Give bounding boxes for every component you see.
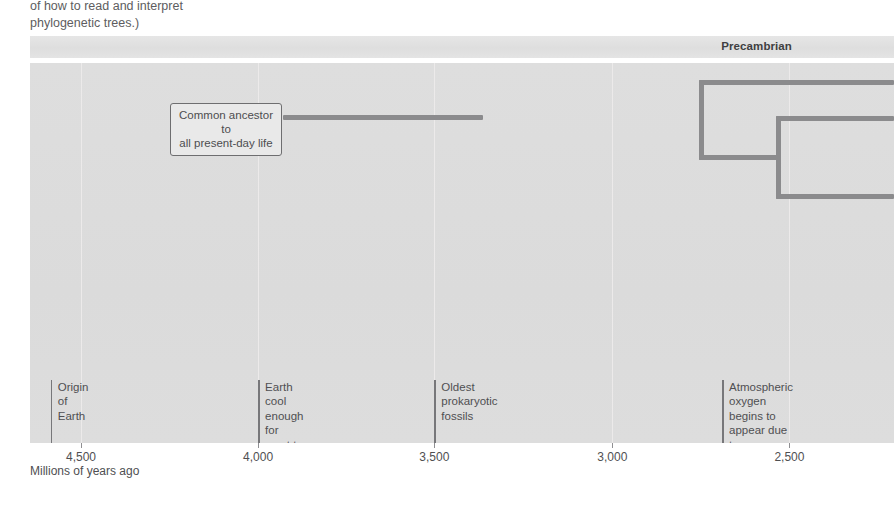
event-rule	[722, 380, 724, 443]
event-rule	[258, 380, 260, 443]
axis-tick-mark	[434, 443, 435, 448]
event-rule	[51, 380, 53, 443]
branch-node-2-stem	[776, 116, 781, 199]
axis-tick-label: 2,500	[774, 450, 804, 464]
event-rule	[434, 380, 436, 443]
axis-tick-mark	[612, 443, 613, 448]
axis-title: Millions of years ago	[30, 464, 894, 478]
event-label: Earth cool enough for crust to solidify	[265, 380, 303, 443]
caption-text: of how to read and interpret phylogeneti…	[30, 0, 330, 32]
axis-tick-mark	[81, 443, 82, 448]
axis-tick-label: 4,500	[66, 450, 96, 464]
axis-tick-label: 4,000	[243, 450, 273, 464]
event-label: Origin of Earth	[58, 380, 89, 424]
phylogenetic-timeline-plot: Common ancestor to all present-day life …	[30, 63, 894, 443]
branch-node-2-upper	[776, 116, 894, 121]
axis-tick-label: 3,500	[419, 450, 449, 464]
branch-node-1-upper	[699, 80, 894, 85]
event-label: Oldest prokaryotic fossils	[441, 380, 497, 424]
branch-node-2-lower	[776, 194, 894, 199]
gridline	[612, 63, 613, 443]
axis-tick-mark	[258, 443, 259, 448]
axis-tick-mark	[789, 443, 790, 448]
era-label: Precambrian	[721, 40, 792, 52]
common-ancestor-callout: Common ancestor to all present-day life	[170, 103, 282, 156]
branch-node-1-stem	[699, 80, 704, 160]
branch-trunk	[283, 115, 483, 120]
branch-node-1-lower	[699, 155, 781, 160]
axis-tick-label: 3,000	[597, 450, 627, 464]
event-label: Atmospheric oxygen begins to appear due …	[729, 380, 803, 443]
era-band-precambrian: Precambrian	[30, 36, 894, 58]
